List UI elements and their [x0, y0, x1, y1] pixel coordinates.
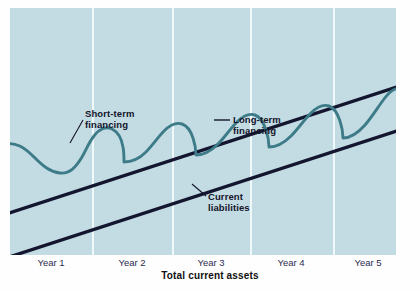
annotation-long-term-line2: financing: [233, 125, 276, 136]
annotation-short-term-line1: Short-term: [85, 108, 135, 119]
x-tick-year-2: Year 2: [118, 257, 145, 268]
bottom-margin: [0, 292, 420, 304]
chart-series-svg: [10, 8, 396, 255]
annotation-long-term-line1: Long-term: [233, 114, 281, 125]
annotation-current-liabilities: Current liabilities: [208, 191, 250, 213]
annotation-current-liabilities-line1: Current: [208, 191, 243, 202]
x-axis-title: Total current assets: [0, 270, 420, 281]
series-total-current-assets: [10, 88, 396, 173]
x-tick-year-1: Year 1: [37, 257, 64, 268]
annotation-current-liabilities-line2: liabilities: [208, 202, 250, 213]
x-tick-year-5: Year 5: [354, 257, 381, 268]
x-tick-year-3: Year 3: [197, 257, 224, 268]
annotation-long-term-financing: Long-term financing: [233, 114, 281, 136]
annotation-short-term-line2: financing: [85, 119, 128, 130]
x-tick-year-4: Year 4: [277, 257, 304, 268]
chart-figure: Short-term financing Long-term financing…: [0, 0, 420, 304]
plot-area: Short-term financing Long-term financing…: [10, 8, 396, 255]
annotation-short-term-financing: Short-term financing: [85, 108, 135, 130]
